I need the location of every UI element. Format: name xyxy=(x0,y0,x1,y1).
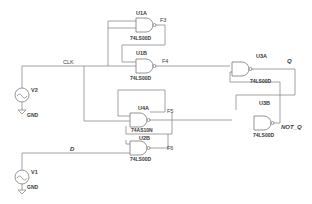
gate-u2b[interactable] xyxy=(130,141,150,155)
net-d: D xyxy=(70,146,75,152)
wires xyxy=(22,21,295,170)
part-u1b: 74LS00D xyxy=(130,75,152,81)
label-u3a: U3A xyxy=(256,53,267,59)
net-f6: F6 xyxy=(167,145,173,151)
net-clk: CLK xyxy=(63,59,74,65)
gate-u4a[interactable] xyxy=(130,113,150,127)
label-v1: V1 xyxy=(31,169,38,175)
label-u3b: U3B xyxy=(259,100,270,106)
net-not-q: NOT_Q xyxy=(281,124,302,130)
part-u4a: 74AS10N xyxy=(131,127,153,133)
net-f5: F5 xyxy=(167,108,173,114)
net-q: Q xyxy=(287,58,292,64)
gate-u1a[interactable] xyxy=(136,18,156,32)
ground-icon xyxy=(18,190,26,194)
part-u1a: 74LS00D xyxy=(130,35,152,41)
net-f3: F3 xyxy=(160,17,166,23)
gate-u3b[interactable] xyxy=(254,116,274,130)
net-f4: F4 xyxy=(162,58,168,64)
gnd-v1: GND xyxy=(27,184,39,190)
source-v2[interactable] xyxy=(15,88,29,114)
gate-u3a[interactable] xyxy=(232,62,252,76)
label-v2: V2 xyxy=(31,87,38,93)
label-u1b: U1B xyxy=(136,50,147,56)
gnd-v2: GND xyxy=(27,112,39,118)
part-u2b: 74LS00D xyxy=(130,156,152,162)
schematic: U1A 74LS00D F3 U1B 74LS00D F4 U4A 74AS10… xyxy=(0,0,312,204)
gate-u1b[interactable] xyxy=(136,59,156,73)
part-u3a: 74LS00D xyxy=(250,78,272,84)
ground-icon xyxy=(18,110,26,114)
label-u2b: U2B xyxy=(139,135,150,141)
schematic-canvas: U1A 74LS00D F3 U1B 74LS00D F4 U4A 74AS10… xyxy=(0,0,312,204)
label-u4a: U4A xyxy=(138,105,149,111)
source-v1[interactable] xyxy=(15,170,29,194)
label-u1a: U1A xyxy=(136,10,147,16)
part-u3b: 74LS00D xyxy=(253,132,275,138)
